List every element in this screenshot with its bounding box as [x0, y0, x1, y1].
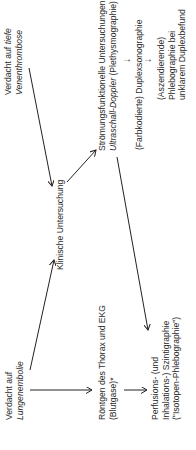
xray-line1: Röntgen des Thorax und EKG: [97, 305, 108, 420]
dvt-line2: Venenthrombose: [14, 28, 25, 95]
pe-line1: Verdacht auf: [4, 361, 15, 420]
pe-line2: Lungenembolie: [15, 361, 26, 420]
phlebo-line1: (Aszendierende): [156, 9, 167, 100]
arrow-down-icon-1: →: [122, 54, 132, 65]
edge-pe-to-clinical: [30, 260, 54, 370]
node-clinical-exam: Klinische Untersuchung: [55, 180, 66, 270]
phlebo-line2: Phlebographie bei: [167, 9, 178, 100]
edge-dvt-to-clinical: [29, 68, 52, 186]
phlebo-line3: unklarem Duplexbefund: [177, 9, 188, 100]
dvt-line1-italic: tiefe: [3, 28, 13, 44]
node-phlebography: (Aszendierende) Phlebographie bei unklar…: [156, 9, 188, 100]
node-flow-tests: Strömungsfunktionelle Untersuchungen: Ul…: [97, 0, 118, 151]
scinti-line1: Perfusions- (und: [150, 317, 161, 420]
scinti-line2: Inhalations-) Szintigraphie: [161, 317, 172, 420]
node-scintigraphy: Perfusions- (und Inhalations-) Szintigra…: [150, 317, 182, 420]
flow-line2-italic: Ultraschall-Doppler: [108, 78, 118, 151]
node-suspicion-dvt: Verdacht auf tiefe Venenthrombose: [3, 28, 24, 95]
arrow-down-icon-2: →: [143, 54, 153, 65]
flow-line2: (Plethysmographie): [108, 1, 118, 78]
scinti-line3: ("Isotopen-Phlebographie"): [171, 317, 182, 420]
flowchart-diagram: Verdacht auf tiefe Venenthrombose Verdac…: [0, 0, 196, 450]
dvt-line1: Verdacht auf: [3, 44, 13, 95]
flow-line1: Strömungsfunktionelle Untersuchungen:: [97, 0, 108, 151]
edge-clinical-to-flow: [67, 150, 96, 182]
node-duplex: (Farbkodierte) Duplexsonographie: [134, 20, 145, 150]
xray-line2: (Blutgase)*: [108, 305, 119, 420]
node-xray: Röntgen des Thorax und EKG (Blutgase)*: [97, 305, 118, 420]
edge-flow-to-scinti: [117, 157, 148, 330]
node-suspicion-pe: Verdacht auf Lungenembolie: [4, 361, 25, 420]
